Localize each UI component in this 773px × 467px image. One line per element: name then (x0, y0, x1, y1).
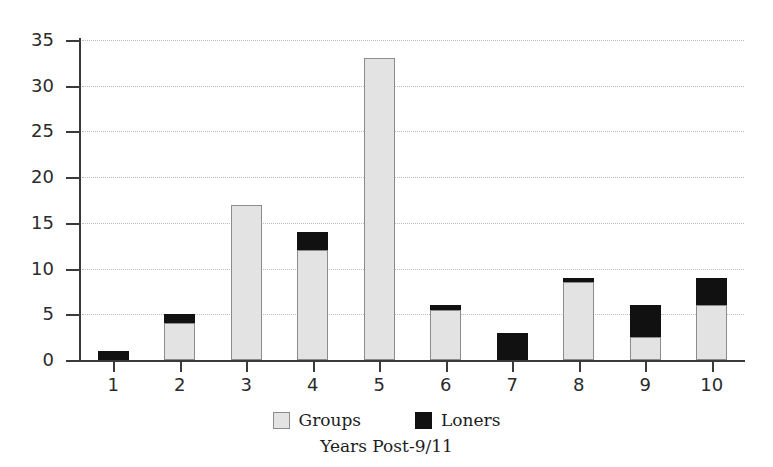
x-tick-label: 1 (91, 374, 135, 395)
x-tick-label: 9 (623, 374, 667, 395)
y-tick-mark (66, 223, 80, 225)
chart-legend: Groups Loners (0, 410, 773, 430)
bar-stack (630, 40, 661, 360)
bar-segment-loners (297, 232, 328, 250)
bar-stack (696, 40, 727, 360)
x-tick-label: 6 (424, 374, 468, 395)
legend-item-loners: Loners (415, 410, 500, 430)
legend-label-loners: Loners (441, 410, 500, 430)
bar-segment-groups (630, 337, 661, 360)
y-tick-label: 15 (10, 212, 54, 233)
bar-segment-groups (164, 323, 195, 360)
y-tick-label: 25 (10, 120, 54, 141)
y-tick-mark (66, 314, 80, 316)
y-tick-mark (66, 269, 80, 271)
bar-chart-figure: 05101520253035 12345678910 Groups Loners… (0, 0, 773, 467)
bar-stack (98, 40, 129, 360)
y-tick-mark (66, 86, 80, 88)
x-tick-label: 3 (224, 374, 268, 395)
bar-segment-groups (696, 305, 727, 360)
x-tick-label: 10 (690, 374, 734, 395)
bar-stack (497, 40, 528, 360)
x-tick-mark (645, 362, 647, 372)
y-tick-mark (66, 177, 80, 179)
bar-segment-loners (98, 351, 129, 360)
x-tick-mark (579, 362, 581, 372)
legend-swatch-loners-icon (415, 412, 432, 429)
bar-stack (231, 40, 262, 360)
x-tick-mark (113, 362, 115, 372)
bar-segment-groups (430, 310, 461, 360)
y-tick-mark (66, 131, 80, 133)
bar-stack (297, 40, 328, 360)
bar-segment-groups (364, 58, 395, 360)
x-tick-label: 7 (490, 374, 534, 395)
x-tick-mark (512, 362, 514, 372)
x-tick-label: 2 (158, 374, 202, 395)
bar-segment-loners (630, 305, 661, 337)
bar-segment-loners (563, 278, 594, 283)
bar-segment-loners (164, 314, 195, 323)
x-tick-label: 5 (357, 374, 401, 395)
x-tick-mark (180, 362, 182, 372)
bar-segment-groups (231, 205, 262, 360)
bar-stack (364, 40, 395, 360)
y-tick-label: 5 (10, 303, 54, 324)
x-tick-mark (446, 362, 448, 372)
x-tick-label: 4 (291, 374, 335, 395)
legend-label-groups: Groups (299, 410, 362, 430)
x-axis-label: Years Post-9/11 (0, 436, 773, 456)
y-tick-mark (66, 40, 80, 42)
y-tick-label: 20 (10, 166, 54, 187)
bar-stack (164, 40, 195, 360)
y-tick-label: 35 (10, 29, 54, 50)
bar-segment-loners (430, 305, 461, 310)
y-tick-label: 0 (10, 349, 54, 370)
x-tick-mark (379, 362, 381, 372)
y-tick-mark (66, 360, 80, 362)
bar-stack (430, 40, 461, 360)
bar-segment-groups (563, 282, 594, 360)
x-tick-mark (246, 362, 248, 372)
x-tick-mark (313, 362, 315, 372)
y-tick-label: 30 (10, 75, 54, 96)
bar-segment-loners (696, 278, 727, 305)
bar-stack (563, 40, 594, 360)
plot-area (80, 40, 745, 360)
y-tick-label: 10 (10, 258, 54, 279)
bar-segment-loners (497, 333, 528, 360)
x-tick-label: 8 (557, 374, 601, 395)
x-tick-mark (712, 362, 714, 372)
legend-swatch-groups-icon (273, 412, 290, 429)
legend-item-groups: Groups (273, 410, 362, 430)
bar-segment-groups (297, 250, 328, 360)
